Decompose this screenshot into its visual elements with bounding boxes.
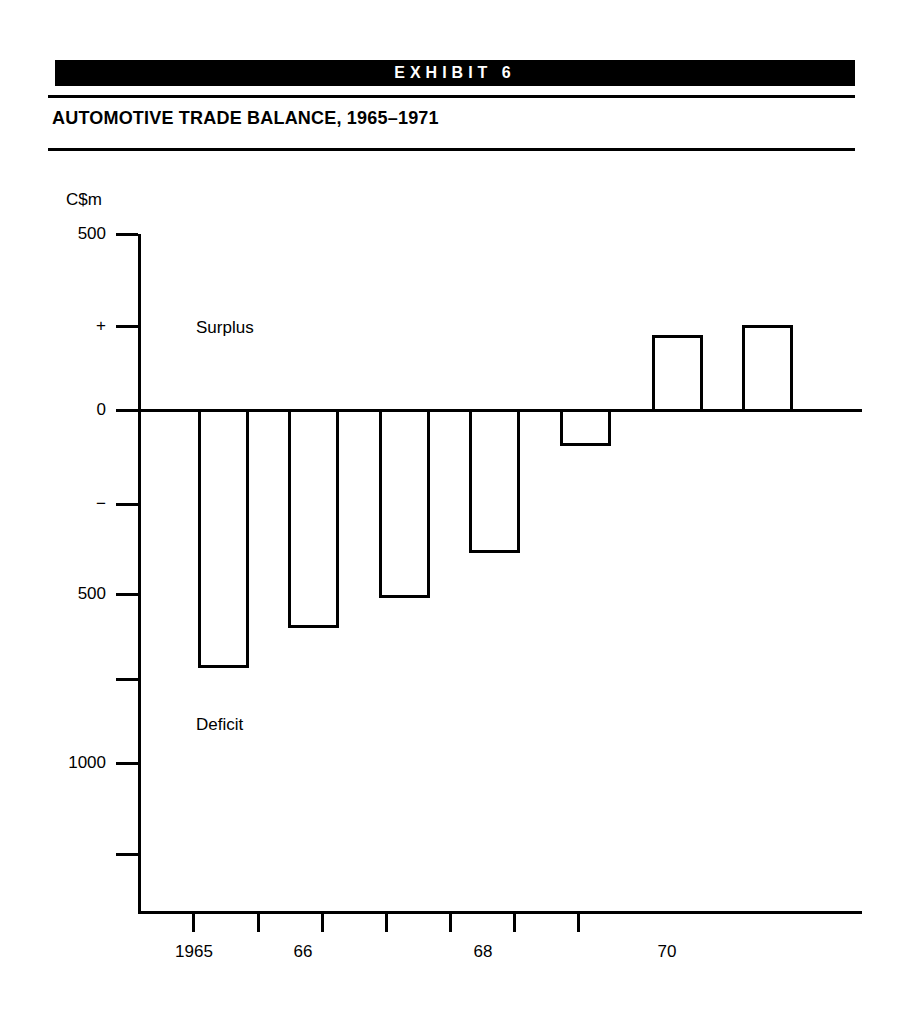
y-tick-mark [116, 853, 138, 856]
y-axis-spine [138, 234, 141, 914]
x-tick-mark [513, 914, 516, 932]
y-tick-mark [116, 678, 138, 681]
x-tick-mark [449, 914, 452, 932]
x-tick-mark [321, 914, 324, 932]
y-tick-mark [116, 233, 138, 236]
y-tick-label: 500 [46, 585, 106, 602]
y-tick-mark [116, 325, 138, 328]
x-tick-mark [577, 914, 580, 932]
bar-1968[interactable] [469, 409, 520, 553]
y-tick-label: 1000 [46, 754, 106, 771]
bar-1970[interactable] [652, 335, 703, 412]
deficit-annotation: Deficit [196, 715, 243, 735]
x-axis-line [138, 911, 862, 914]
x-tick-label-1968: 68 [453, 942, 513, 962]
y-tick-mark [116, 762, 138, 765]
x-tick-mark [257, 914, 260, 932]
bar-1969[interactable] [560, 409, 611, 446]
y-tick-mark [116, 593, 138, 596]
x-tick-label-1965: 1965 [164, 942, 224, 962]
bar-1967[interactable] [379, 409, 430, 598]
y-tick-label: 500 [46, 225, 106, 242]
y-tick-label-negative-sign: − [46, 495, 106, 512]
bar-chart: C$m 500 + 0 − 500 1000 [0, 0, 899, 1019]
y-tick-mark [116, 503, 138, 506]
x-tick-label-1970: 70 [637, 942, 697, 962]
x-tick-label-1966: 66 [273, 942, 333, 962]
x-tick-mark [385, 914, 388, 932]
y-tick-label-positive-sign: + [46, 317, 106, 334]
x-tick-mark [192, 914, 195, 932]
y-tick-label: 0 [46, 401, 106, 418]
surplus-annotation: Surplus [196, 318, 254, 338]
bar-1966[interactable] [288, 409, 339, 628]
y-tick-mark [116, 409, 138, 412]
bar-1965[interactable] [198, 409, 249, 668]
bar-1971[interactable] [742, 325, 793, 412]
y-axis-unit-label: C$m [66, 190, 102, 210]
